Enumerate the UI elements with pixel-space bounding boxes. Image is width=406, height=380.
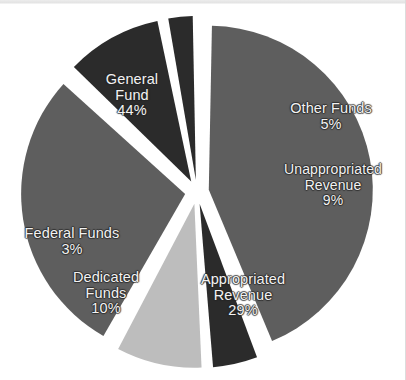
pie-chart-figure: General Fund 44% Other Funds 5% Unapprop… <box>0 0 406 380</box>
pie-slice-general-fund[interactable] <box>209 26 373 341</box>
pie-chart-canvas <box>0 0 406 380</box>
